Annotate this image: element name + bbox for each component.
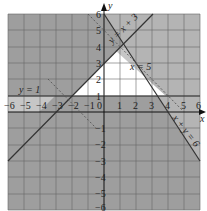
svg-text:−1: −1 <box>95 123 106 134</box>
svg-text:1: 1 <box>96 91 101 102</box>
svg-text:4: 4 <box>96 42 101 53</box>
svg-text:1: 1 <box>117 100 122 111</box>
y-axis-label: y <box>107 0 113 11</box>
svg-text:−4: −4 <box>95 172 106 183</box>
label-line-c: y = 1 <box>18 84 40 95</box>
svg-text:−2: −2 <box>95 139 106 150</box>
svg-text:−5: −5 <box>95 188 106 199</box>
svg-text:−2: −2 <box>68 100 79 111</box>
svg-text:−6: −6 <box>4 100 15 111</box>
svg-text:2: 2 <box>96 74 101 85</box>
svg-text:5: 5 <box>96 25 101 36</box>
inequality-graph: −6−5 −4−3 −2−1 0 12 34 56 65 43 21 −1−2 … <box>0 0 207 211</box>
label-line-b: x = 5 <box>129 61 151 72</box>
svg-text:2: 2 <box>133 100 138 111</box>
svg-text:6: 6 <box>96 9 101 20</box>
svg-text:3: 3 <box>149 100 154 111</box>
svg-text:−6: −6 <box>95 202 106 211</box>
svg-text:−3: −3 <box>95 156 106 167</box>
svg-text:−4: −4 <box>36 100 47 111</box>
svg-text:−3: −3 <box>52 100 63 111</box>
svg-text:3: 3 <box>96 58 101 69</box>
svg-text:−1: −1 <box>84 100 95 111</box>
svg-text:6: 6 <box>196 100 201 111</box>
svg-text:5: 5 <box>181 100 186 111</box>
svg-text:4: 4 <box>165 100 170 111</box>
y-axis-arrow-icon <box>101 3 107 11</box>
x-axis-label: x <box>199 113 205 124</box>
svg-text:−5: −5 <box>20 100 31 111</box>
